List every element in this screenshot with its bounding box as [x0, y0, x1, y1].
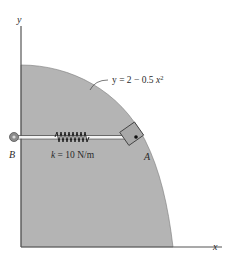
parabolic-region — [21, 65, 173, 247]
curve-equation: y = 2 − 0.5 x2 — [112, 74, 163, 86]
pin-b-center — [12, 135, 15, 138]
x-axis-label: x — [212, 241, 218, 252]
point-b-label: B — [9, 149, 15, 160]
y-axis-label: y — [16, 14, 22, 25]
collar-pin — [134, 135, 138, 139]
spring-constant-label: k = 10 N/m — [51, 150, 95, 160]
point-a-label: A — [143, 151, 151, 162]
spring-collar-diagram: y x y = 2 − 0.5 x2 B A k = 10 N/m — [0, 0, 232, 265]
